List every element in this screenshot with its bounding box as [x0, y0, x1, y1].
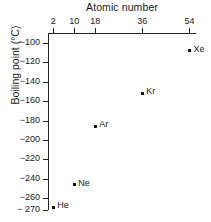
- y-tick-mark: [43, 121, 48, 122]
- data-point-label: Ne: [78, 178, 90, 188]
- data-point-marker: [73, 183, 76, 186]
- y-axis-line: [48, 33, 49, 210]
- y-tick-mark: [43, 43, 48, 44]
- y-tick-label: −240: [0, 173, 40, 183]
- y-tick-mark: [43, 159, 48, 160]
- y-tick-mark: [43, 62, 48, 63]
- y-tick-mark: [43, 198, 48, 199]
- data-point-marker: [188, 49, 191, 52]
- y-tick-mark: [43, 179, 48, 180]
- y-tick-label: −100: [0, 37, 40, 47]
- x-tick-label: 18: [80, 16, 110, 26]
- y-tick-mark: [43, 101, 48, 102]
- y-tick-mark: [43, 82, 48, 83]
- x-tick-mark: [74, 28, 75, 33]
- y-tick-label: −140: [0, 76, 40, 86]
- data-point-label: He: [57, 200, 69, 210]
- data-point-label: Ar: [99, 119, 108, 129]
- scatter-chart: Atomic number Boiling point (°C) 2101836…: [0, 0, 211, 222]
- data-point-label: Xe: [193, 44, 204, 54]
- x-tick-mark: [189, 28, 190, 33]
- y-tick-mark: [43, 140, 48, 141]
- y-tick-label: −160: [0, 95, 40, 105]
- x-axis-title: Atomic number: [48, 1, 196, 13]
- data-point-marker: [52, 206, 55, 209]
- x-tick-mark: [53, 28, 54, 33]
- x-tick-label: 36: [127, 16, 157, 26]
- y-tick-label: −120: [0, 56, 40, 66]
- y-tick-label: −260: [0, 192, 40, 202]
- y-tick-label: −220: [0, 153, 40, 163]
- y-tick-label: −180: [0, 115, 40, 125]
- y-tick-label: −200: [0, 134, 40, 144]
- x-tick-mark: [142, 28, 143, 33]
- x-axis-line: [48, 33, 196, 34]
- data-point-marker: [141, 92, 144, 95]
- x-tick-label: 54: [174, 16, 204, 26]
- data-point-label: Kr: [146, 86, 155, 96]
- data-point-marker: [94, 125, 97, 128]
- x-tick-mark: [95, 28, 96, 33]
- y-tick-mark: [43, 210, 48, 211]
- y-tick-label: − 270: [0, 204, 40, 214]
